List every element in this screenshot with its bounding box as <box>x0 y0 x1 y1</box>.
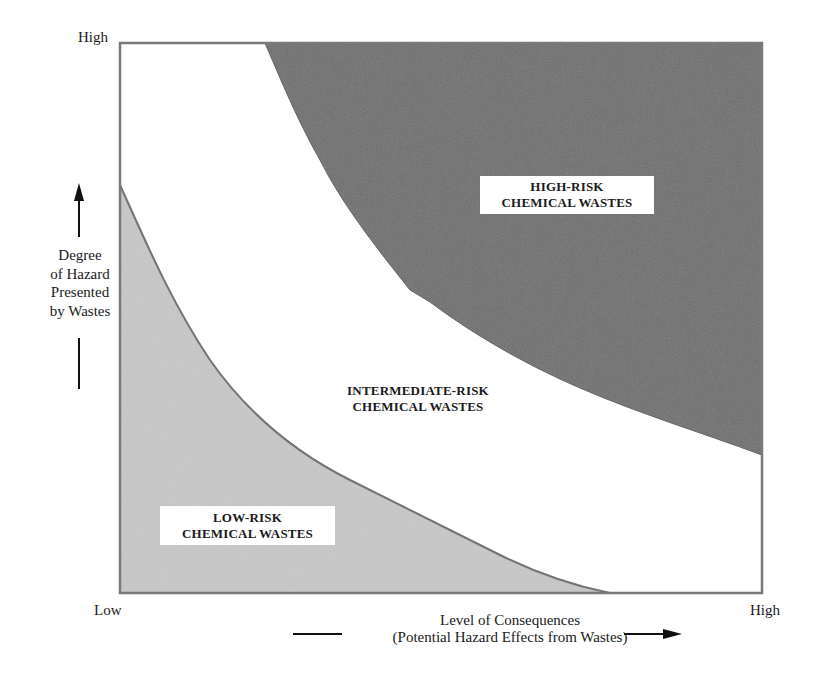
x-axis-low-label: Low <box>94 601 122 619</box>
y-axis-title-line: Degree <box>36 246 124 265</box>
x-axis-title-line: (Potential Hazard Effects from Wastes) <box>340 629 680 646</box>
x-axis-title: Level of Consequences (Potential Hazard … <box>340 612 680 646</box>
y-axis-title: Degree of Hazard Presented by Wastes <box>36 246 124 320</box>
y-axis-title-line: by Wastes <box>36 302 124 321</box>
high-risk-label: HIGH-RISK CHEMICAL WASTES <box>480 176 654 214</box>
high-risk-label-line2: CHEMICAL WASTES <box>480 195 654 211</box>
y-axis-high-label: High <box>78 28 108 46</box>
intermediate-risk-label-line2: CHEMICAL WASTES <box>338 399 498 415</box>
high-risk-label-line1: HIGH-RISK <box>480 179 654 195</box>
risk-diagram <box>0 0 823 687</box>
y-axis-title-line: Presented <box>36 283 124 302</box>
low-risk-label-line1: LOW-RISK <box>160 510 335 526</box>
x-axis-title-line: Level of Consequences <box>340 612 680 629</box>
intermediate-risk-label: INTERMEDIATE-RISK CHEMICAL WASTES <box>338 383 498 415</box>
y-axis-title-line: of Hazard <box>36 265 124 284</box>
low-risk-label-line2: CHEMICAL WASTES <box>160 526 335 542</box>
x-axis-high-label: High <box>750 601 780 619</box>
intermediate-risk-label-line1: INTERMEDIATE-RISK <box>338 383 498 399</box>
low-risk-label: LOW-RISK CHEMICAL WASTES <box>160 506 335 545</box>
